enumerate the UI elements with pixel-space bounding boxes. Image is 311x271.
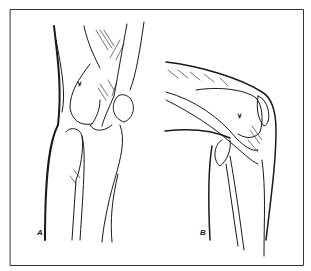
panel-b-drawing (165, 62, 276, 256)
knee-illustration: A B (0, 0, 311, 271)
figure-frame (11, 10, 304, 266)
panel-a-drawing (45, 22, 144, 242)
panel-label-b: B (200, 228, 206, 237)
panel-label-a: A (36, 228, 43, 237)
